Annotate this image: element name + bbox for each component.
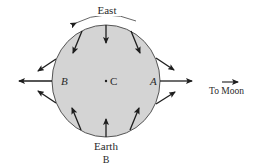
east-rotation-arc bbox=[76, 15, 136, 23]
point-c-label: C bbox=[110, 75, 117, 87]
center-point bbox=[105, 80, 107, 82]
point-b-label: B bbox=[61, 75, 68, 87]
earth-label: Earth bbox=[94, 140, 118, 152]
tidal-force-diagram: East B A C To Moon Earth B bbox=[0, 0, 261, 166]
caption-letter: B bbox=[103, 154, 110, 165]
to-moon-label: To Moon bbox=[209, 86, 244, 96]
point-a-label: A bbox=[149, 75, 157, 87]
east-label: East bbox=[98, 4, 117, 16]
